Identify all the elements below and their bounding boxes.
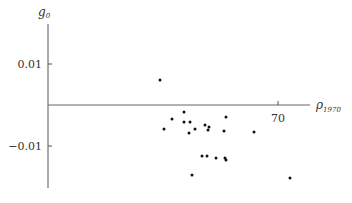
data-point bbox=[189, 121, 192, 124]
data-point bbox=[194, 128, 197, 131]
data-point bbox=[188, 132, 191, 135]
data-point bbox=[207, 129, 210, 132]
y-tick-label: −0.01 bbox=[8, 140, 42, 153]
data-point bbox=[215, 157, 218, 160]
data-point bbox=[225, 159, 228, 162]
data-point bbox=[183, 121, 186, 124]
x-axis-label-sub: 1970 bbox=[323, 106, 341, 114]
data-point bbox=[206, 155, 209, 158]
x-axis-label: ρ1970 bbox=[315, 98, 341, 114]
data-point bbox=[171, 118, 174, 121]
data-point bbox=[208, 126, 211, 129]
data-point bbox=[159, 79, 162, 82]
data-point bbox=[223, 130, 226, 133]
x-tick-label: 70 bbox=[271, 112, 285, 125]
data-point bbox=[289, 177, 292, 180]
data-point bbox=[163, 128, 166, 131]
y-axis-label-sub: 0 bbox=[46, 12, 51, 20]
data-point bbox=[253, 131, 256, 134]
y-axis-label: g0 bbox=[38, 5, 51, 20]
scatter-chart: 0.01−0.0170g0ρ1970 bbox=[0, 0, 352, 203]
y-tick-label: 0.01 bbox=[18, 58, 43, 71]
data-point bbox=[201, 155, 204, 158]
data-point bbox=[225, 116, 228, 119]
data-point bbox=[204, 124, 207, 127]
data-point bbox=[191, 174, 194, 177]
data-point bbox=[183, 111, 186, 114]
